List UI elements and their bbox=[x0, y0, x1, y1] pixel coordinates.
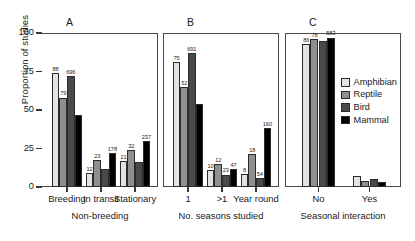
bar bbox=[86, 173, 94, 187]
x-tick-mark bbox=[187, 187, 188, 192]
x-tick-mark bbox=[221, 187, 222, 192]
x-tick-mark bbox=[100, 187, 101, 192]
bar bbox=[256, 178, 264, 187]
bar-value-label: 23 bbox=[88, 153, 106, 159]
bar-value-label: 32 bbox=[122, 143, 140, 149]
bar-value-label: 160 bbox=[259, 121, 277, 127]
y-tick-label: 25 bbox=[8, 144, 34, 153]
legend-swatch-reptile bbox=[341, 91, 350, 100]
y-tick-label: 100 bbox=[8, 28, 34, 37]
figure-container: Proportion of studies 0255075100 ABC Amp… bbox=[0, 0, 415, 241]
bar bbox=[222, 175, 230, 187]
bar bbox=[378, 182, 386, 187]
bar bbox=[310, 39, 318, 187]
x-category-label: Yes bbox=[330, 193, 410, 204]
bar-value-label: 75 bbox=[168, 55, 186, 61]
legend-label-bird: Bird bbox=[354, 103, 370, 112]
legend-item-bird: Bird bbox=[341, 101, 397, 114]
bar bbox=[188, 53, 196, 187]
legend-item-mammal: Mammal bbox=[341, 114, 397, 127]
bar-value-label: 691 bbox=[183, 46, 201, 52]
bar bbox=[143, 141, 151, 187]
bar bbox=[127, 150, 135, 187]
bar bbox=[67, 76, 75, 187]
x-axis-title-c: Seasonal interaction bbox=[273, 210, 413, 221]
y-tick-label: 0 bbox=[8, 182, 34, 191]
x-tick-mark bbox=[66, 187, 67, 192]
legend-item-amphibian: Amphibian bbox=[341, 76, 397, 89]
bar-value-label: 237 bbox=[138, 134, 156, 140]
bar-value-label: 18 bbox=[243, 147, 261, 153]
panel-label-a: A bbox=[66, 16, 73, 28]
legend-swatch-bird bbox=[341, 103, 350, 112]
bar bbox=[196, 104, 204, 187]
bar bbox=[75, 115, 83, 187]
legend-label-mammal: Mammal bbox=[354, 116, 389, 125]
bar bbox=[264, 128, 272, 187]
bar-value-label: 583 bbox=[322, 30, 340, 36]
bar bbox=[319, 41, 327, 187]
bar-value-label: 696 bbox=[62, 69, 80, 75]
bar bbox=[370, 179, 378, 187]
legend: Amphibian Reptile Bird Mammal bbox=[341, 76, 397, 126]
bar bbox=[101, 169, 109, 187]
bar bbox=[120, 161, 128, 187]
bar bbox=[302, 44, 310, 187]
bar bbox=[241, 174, 249, 187]
y-tick-label: 75 bbox=[8, 67, 34, 76]
bar bbox=[93, 160, 101, 187]
bar bbox=[135, 162, 143, 187]
bar bbox=[180, 87, 188, 187]
y-tick-label: 50 bbox=[8, 105, 34, 114]
x-tick-mark bbox=[134, 187, 135, 192]
bar bbox=[353, 176, 361, 187]
bar bbox=[59, 98, 67, 187]
legend-label-reptile: Reptile bbox=[354, 90, 383, 99]
x-tick-mark bbox=[255, 187, 256, 192]
panel-label-c: C bbox=[309, 16, 317, 28]
bar bbox=[327, 38, 335, 187]
legend-swatch-amphibian bbox=[341, 78, 350, 87]
x-axis-title-a: Non-breeding bbox=[30, 210, 170, 221]
bar bbox=[207, 170, 215, 187]
x-tick-mark bbox=[318, 187, 319, 192]
legend-label-amphibian: Amphibian bbox=[354, 78, 397, 87]
bar-value-label: 178 bbox=[104, 146, 122, 152]
legend-item-reptile: Reptile bbox=[341, 89, 397, 102]
panel-label-b: B bbox=[187, 16, 194, 28]
x-axis-title-b: No. seasons studied bbox=[151, 210, 291, 221]
legend-swatch-mammal bbox=[341, 116, 350, 125]
x-tick-mark bbox=[369, 187, 370, 192]
